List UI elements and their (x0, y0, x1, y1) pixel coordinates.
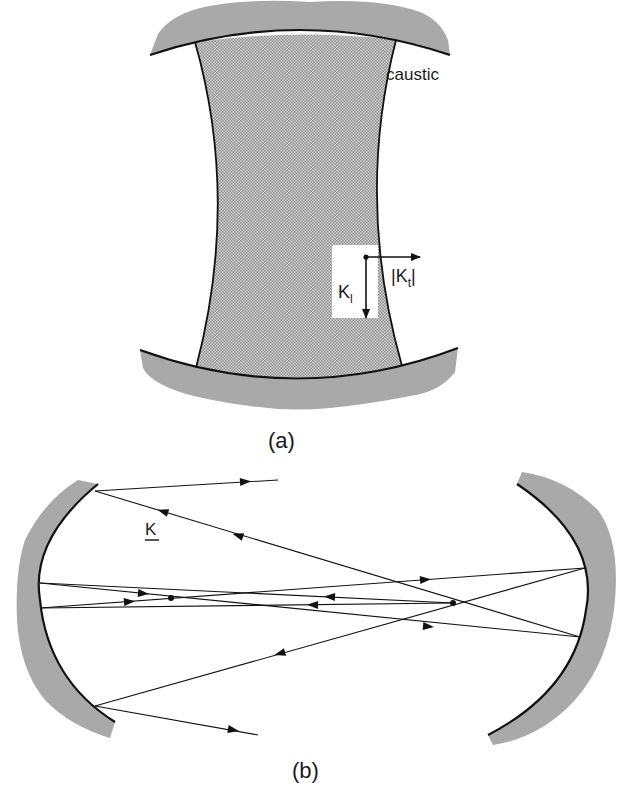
right-focal-point (450, 600, 456, 606)
left-mirror-shading (17, 480, 115, 738)
caustic-label: caustic (386, 65, 439, 84)
figure-b-caption: (b) (292, 758, 319, 783)
figure-a-caption: (a) (268, 428, 295, 453)
arrow-icon (138, 589, 150, 598)
arrow-icon (124, 597, 136, 606)
optical-resonator-figure: caustic |Kt| Kl (a) (0, 0, 627, 795)
arrow-icon (420, 575, 432, 584)
arrow-icon (307, 601, 318, 609)
left-focal-point (168, 595, 174, 601)
arrow-icon (273, 648, 286, 659)
caustic-region (195, 34, 402, 379)
wavevector-label: K (145, 520, 157, 539)
figure-a: caustic |Kt| Kl (a) (140, 1, 458, 453)
arrow-icon (231, 530, 244, 541)
arrow-icon (227, 725, 239, 735)
ray-top-outgoing (95, 480, 278, 491)
figure-b: K (b) (17, 472, 616, 783)
ray-left-lower-to-right-upper (40, 568, 585, 608)
arrow-icon (156, 506, 169, 517)
ray-left-upper-to-right-lower (40, 583, 580, 637)
arrow-icon (240, 477, 251, 486)
arrow-icon (324, 592, 335, 601)
ray-left-upper-to-focus (40, 583, 453, 603)
arrow-icon (423, 622, 435, 631)
ray-paths (40, 480, 585, 735)
transverse-vector-label: |Kt| (391, 266, 416, 290)
